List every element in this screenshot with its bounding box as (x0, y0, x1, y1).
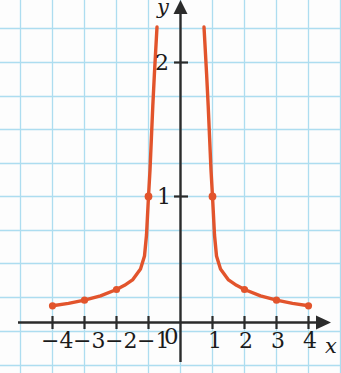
data-point (49, 302, 56, 309)
data-point (305, 302, 312, 309)
curve-left-branch (53, 27, 158, 306)
graph-figure: −4 −3 −2 −1 1 2 3 4 0 1 2 x y (0, 0, 341, 373)
data-point (273, 297, 280, 304)
origin-label: 0 (164, 325, 179, 348)
x-tick-label-4: 4 (303, 330, 317, 352)
x-axis-arrowhead (316, 316, 331, 330)
x-tick-label-2: 2 (239, 330, 253, 352)
data-point (241, 286, 248, 293)
y-axis-arrowhead (174, 0, 188, 14)
curve-right-branch (204, 27, 309, 306)
data-point (81, 297, 88, 304)
y-tick-label-2: 2 (155, 52, 169, 74)
x-tick-label-3: 3 (271, 330, 285, 352)
data-point (113, 286, 120, 293)
data-point (209, 193, 217, 201)
y-axis-label: y (157, 0, 169, 18)
y-tick-label-1: 1 (157, 186, 171, 208)
x-axis-label: x (325, 336, 337, 357)
x-tick-label-1: 1 (208, 330, 222, 352)
x-tick-label--2: −2 (105, 330, 137, 352)
data-point (145, 193, 153, 201)
x-tick-label--4: −4 (41, 330, 73, 352)
x-tick-label--3: −3 (73, 330, 105, 352)
